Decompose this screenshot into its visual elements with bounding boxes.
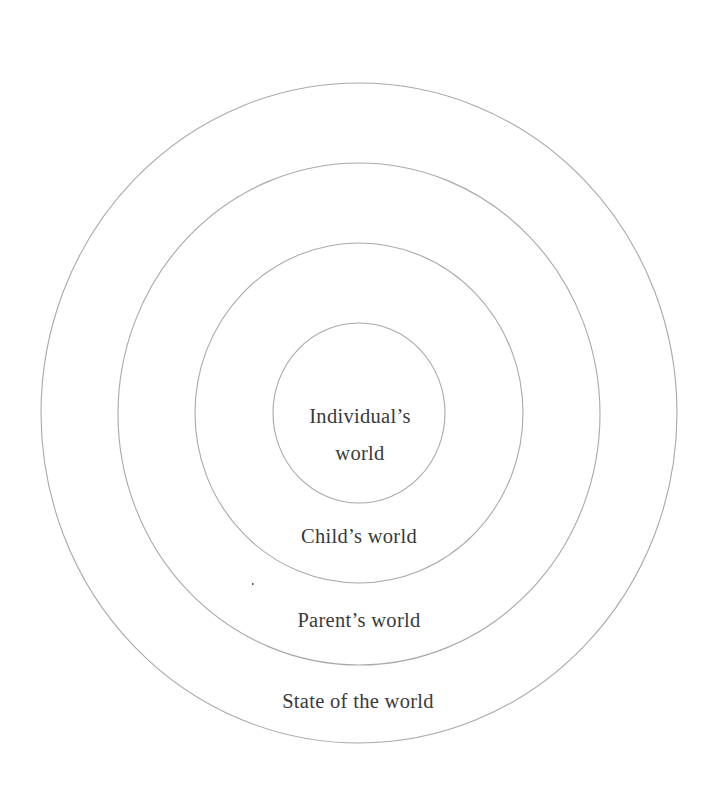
concentric-worlds-diagram: Individual’s world Child’s world Parent’… (0, 0, 715, 795)
label-state-of-the-world: State of the world (282, 690, 434, 712)
stray-speck (252, 583, 254, 585)
label-individuals-world-line1: Individual’s (309, 405, 411, 427)
label-childs-world: Child’s world (301, 525, 417, 547)
label-individuals-world-line2: world (335, 442, 384, 464)
label-parents-world: Parent’s world (297, 609, 420, 631)
